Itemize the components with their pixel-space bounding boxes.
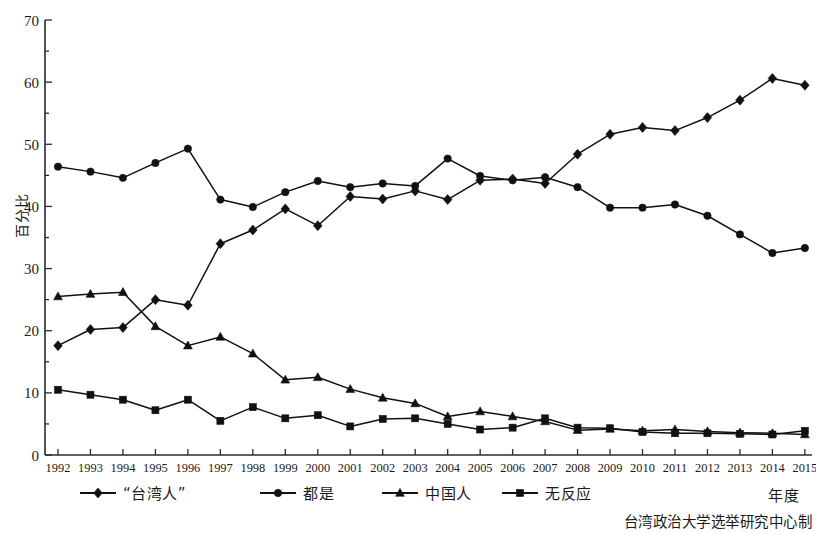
legend-marker-circle [258,486,298,500]
data-point [444,155,451,162]
data-point [216,239,225,249]
y-tick-label: 10 [24,385,39,401]
x-tick-label: 2012 [695,461,720,475]
data-point [282,188,289,195]
data-point [801,427,808,434]
data-point [184,396,191,403]
data-point [379,180,386,187]
data-point [87,168,94,175]
legend-entry-1[interactable]: 都是 [258,482,334,503]
data-point [412,415,419,422]
y-axis-title: 百分比 [11,180,31,250]
x-tick-label: 2015 [792,461,816,475]
x-tick-label: 2011 [663,461,687,475]
data-point [671,201,678,208]
data-point [184,145,191,152]
data-point [509,424,516,431]
x-tick-label: 2013 [728,461,753,475]
data-point [606,129,615,139]
data-point [769,431,776,438]
data-point [703,113,712,123]
x-tick-label: 1996 [175,461,200,475]
data-point [217,196,224,203]
data-point [444,420,451,427]
x-tick-label: 1992 [46,461,71,475]
data-point [282,415,289,422]
x-tick-label: 2005 [468,461,493,475]
legend-marker-triangle [380,486,420,500]
series-line [58,149,805,253]
data-point [704,430,711,437]
data-point [801,80,810,90]
legend-marker-diamond [78,486,118,500]
data-point [119,396,126,403]
data-point [314,177,321,184]
data-point [477,426,484,433]
legend-label: 中国人 [425,482,472,503]
series-line [58,78,805,345]
x-tick-label: 2003 [403,461,428,475]
data-point [574,183,581,190]
data-point [119,288,128,296]
data-point [769,249,776,256]
x-axis-title: 年度 [768,484,800,505]
legend-label: 都是 [303,482,334,503]
data-point [249,225,258,235]
data-point [671,430,678,437]
legend-entry-0[interactable]: “台湾人” [78,482,186,503]
x-tick-label: 1998 [240,461,265,475]
x-tick-label: 2010 [630,461,655,475]
legend-entry-2[interactable]: 中国人 [380,482,472,503]
data-point [542,415,549,422]
data-point [443,195,452,205]
x-tick-label: 2006 [500,461,525,475]
x-tick-label: 2000 [305,461,330,475]
data-point [704,212,711,219]
data-point [768,73,777,83]
x-tick-label: 2014 [760,461,785,475]
data-point [736,231,743,238]
data-point [476,172,483,179]
legend-label: 无反应 [545,482,592,503]
data-point [509,177,516,184]
series-layer [54,73,810,438]
series-2 [54,288,810,438]
x-tick-label: 1999 [273,461,298,475]
x-tick-label: 2001 [338,461,363,475]
data-point [184,300,193,310]
data-point [54,341,63,351]
data-point [87,391,94,398]
data-point [639,204,646,211]
legend-label: “台湾人” [123,482,186,503]
data-point [86,324,95,334]
x-tick-label: 2008 [565,461,590,475]
data-point [671,126,680,136]
legend-marker-square [500,486,540,500]
y-tick-label: 60 [24,75,39,91]
data-point [55,386,62,393]
data-point [574,424,581,431]
y-tick-label: 70 [24,13,39,29]
data-point [152,407,159,414]
data-point [248,349,257,357]
data-point [736,95,745,105]
data-point [119,174,126,181]
series-1 [54,145,808,257]
data-point [639,429,646,436]
series-line [58,292,805,434]
data-point [736,430,743,437]
data-point [801,244,808,251]
x-tick-label: 1994 [111,461,136,475]
chart-root: 010203040506070 199219931994199519961997… [0,0,816,534]
data-point [347,183,354,190]
legend-entry-3[interactable]: 无反应 [500,482,592,503]
data-point [216,332,225,340]
data-point [606,204,613,211]
y-tick-label: 30 [24,261,39,277]
data-point [249,404,256,411]
x-tick-label: 2004 [435,461,460,475]
x-tick-label: 1997 [208,461,233,475]
data-point [347,423,354,430]
x-tick-label: 2007 [533,461,558,475]
y-axis-ticks [45,20,52,455]
